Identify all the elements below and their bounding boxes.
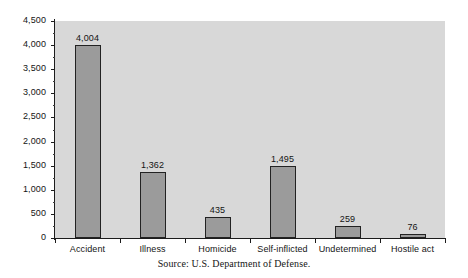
- x-axis-tick-mark: [185, 239, 186, 243]
- bar-group[interactable]: 1,495: [250, 21, 315, 238]
- bar[interactable]: [335, 226, 361, 238]
- bar-chart-figure: 05001,0001,5002,0002,5003,0003,5004,0004…: [0, 0, 468, 278]
- source-note: Source: U.S. Department of Defense.: [0, 258, 468, 269]
- bar-group[interactable]: 1,362: [120, 21, 185, 238]
- bar[interactable]: [205, 217, 231, 238]
- y-axis-tick-label: 0: [41, 232, 46, 242]
- bar[interactable]: [270, 166, 296, 238]
- x-axis-category-label: Self-inflicted: [250, 244, 315, 254]
- x-axis-category-label: Undetermined: [315, 244, 380, 254]
- bar-value-label: 1,362: [141, 160, 164, 170]
- x-axis-category-label: Illness: [120, 244, 185, 254]
- y-axis-tick-label: 2,000: [23, 136, 46, 146]
- bar-group[interactable]: 259: [315, 21, 380, 238]
- bar-group[interactable]: 4,004: [55, 21, 120, 238]
- y-axis-tick-label: 3,500: [23, 63, 46, 73]
- bar-value-label: 4,004: [76, 33, 99, 43]
- bar[interactable]: [400, 234, 426, 238]
- bar[interactable]: [75, 45, 101, 238]
- x-axis-tick-mark: [380, 239, 381, 243]
- bar-group[interactable]: 76: [380, 21, 445, 238]
- bar-value-label: 1,495: [271, 154, 294, 164]
- x-axis-tick-mark: [315, 239, 316, 243]
- bar[interactable]: [140, 172, 166, 238]
- x-axis-tick-mark: [445, 239, 446, 243]
- y-axis-tick-label: 4,000: [23, 39, 46, 49]
- y-axis-tick-label: 4,500: [23, 15, 46, 25]
- bar-value-label: 259: [340, 214, 355, 224]
- x-axis-category-label: Hostile act: [380, 244, 445, 254]
- bar-value-label: 435: [210, 205, 225, 215]
- y-axis-tick-label: 3,000: [23, 87, 46, 97]
- x-axis-tick-mark: [250, 239, 251, 243]
- y-axis-tick-label: 1,000: [23, 184, 46, 194]
- bar-value-label: 76: [407, 222, 417, 232]
- y-axis-tick-label: 1,500: [23, 160, 46, 170]
- x-axis-tick-mark: [120, 239, 121, 243]
- x-axis-tick-mark: [55, 239, 56, 243]
- y-axis-tick-label: 2,500: [23, 111, 46, 121]
- bar-group[interactable]: 435: [185, 21, 250, 238]
- y-axis-tick-label: 500: [31, 208, 46, 218]
- x-axis-category-label: Accident: [55, 244, 120, 254]
- x-axis-category-label: Homicide: [185, 244, 250, 254]
